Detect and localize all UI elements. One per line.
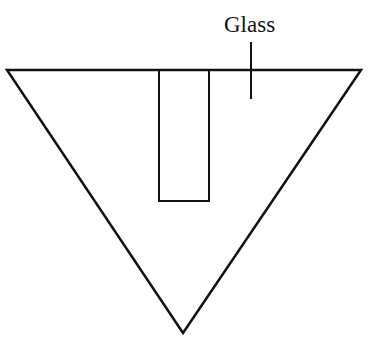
glass-label: Glass <box>224 12 275 37</box>
inner-rectangle <box>159 70 209 201</box>
glass-diagram: Glass <box>0 0 373 354</box>
